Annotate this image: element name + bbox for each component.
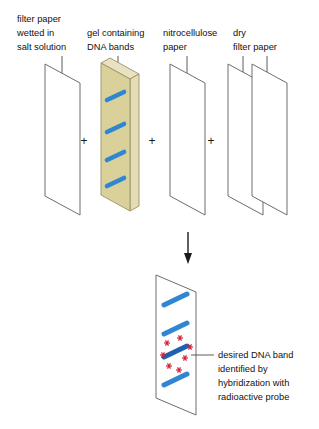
caption-line: radioactive probe [218,392,289,402]
label-filter-paper-wetted: filter paper wetted in salt solution [16,14,66,52]
filter-paper-wetted-sheet [45,64,80,215]
blotted-nitrocellulose-sheet [156,275,196,415]
label-line: salt solution [17,42,66,52]
caption-line: identified by [218,364,268,374]
gel-front-face [101,63,130,211]
caption-desired-dna-band: desired DNA band identified by hybridiza… [218,350,293,402]
caption-line: desired DNA band [218,350,293,360]
label-line: filter paper [17,14,61,24]
dry-filter-sheet-front [252,64,287,215]
nitrocellulose-sheet [170,64,205,215]
downward-process-arrow [184,232,192,264]
label-line: DNA bands [87,42,134,52]
arrow-head [184,253,192,264]
plus-operator-2: + [148,134,155,148]
gel-side-face [130,74,139,211]
label-gel: gel containing DNA bands [87,28,144,52]
caption-line: hybridization with [218,378,289,388]
label-nitrocellulose: nitrocellulose paper [163,28,217,52]
label-line: wetted in [16,28,54,38]
label-line: gel containing [87,28,144,38]
label-line: dry [233,28,246,38]
label-dry-filter-paper: dry filter paper [233,28,277,52]
plus-operator-1: + [80,134,87,148]
southern-blot-diagram: filter paper wetted in salt solution gel… [0,0,319,429]
gel-slab [101,58,139,211]
label-line: filter paper [233,42,277,52]
plus-operator-3: + [207,134,214,148]
label-line: nitrocellulose [163,28,217,38]
label-line: paper [163,42,187,52]
